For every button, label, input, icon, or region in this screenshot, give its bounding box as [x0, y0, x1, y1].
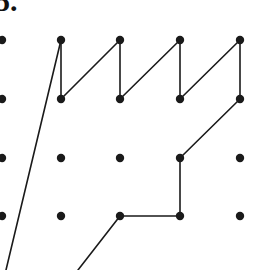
grid-dot — [176, 36, 184, 44]
grid-dot — [236, 212, 244, 220]
grid-dot — [116, 154, 124, 162]
figure-canvas — [0, 0, 271, 270]
seg-d2 — [120, 40, 180, 99]
grid-dot — [0, 36, 6, 44]
grid-dot — [236, 36, 244, 44]
seg-d1 — [61, 40, 120, 99]
grid-dot — [236, 95, 244, 103]
dot-grid-figure: 5. — [0, 0, 271, 270]
seg-bottom-diagonal — [78, 216, 120, 270]
grid-dot — [116, 36, 124, 44]
dot-grid-layer — [0, 36, 244, 220]
grid-dot — [57, 36, 65, 44]
seg-left-long-diagonal — [6, 40, 61, 270]
grid-dot — [57, 212, 65, 220]
grid-dot — [236, 154, 244, 162]
grid-dot — [116, 95, 124, 103]
seg-d4 — [180, 99, 240, 158]
grid-dot — [0, 95, 6, 103]
grid-dot — [57, 95, 65, 103]
shape-layer — [6, 40, 240, 270]
grid-dot — [176, 95, 184, 103]
grid-dot — [116, 212, 124, 220]
grid-dot — [0, 154, 6, 162]
seg-d3 — [180, 40, 240, 99]
grid-dot — [176, 212, 184, 220]
grid-dot — [57, 154, 65, 162]
grid-dot — [0, 212, 6, 220]
grid-dot — [176, 154, 184, 162]
